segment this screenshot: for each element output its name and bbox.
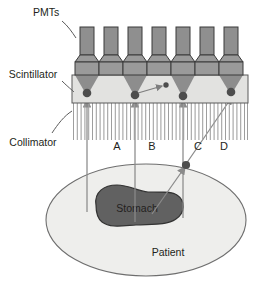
interaction-dot-c <box>179 92 188 101</box>
pmt-4 <box>147 27 171 75</box>
pmt-taper <box>123 55 147 62</box>
pmt-base <box>75 62 99 75</box>
pmt-7 <box>219 27 243 75</box>
ray-label-d: D <box>220 140 228 152</box>
interaction-dot-a <box>83 89 92 98</box>
interaction-dot-d <box>227 88 236 97</box>
collimator-label: Collimator <box>9 136 57 148</box>
pmt-base <box>219 62 243 75</box>
pmt-base <box>99 62 123 75</box>
scintillator-label: Scintillator <box>9 68 58 80</box>
pmts-label: PMTs <box>33 6 59 18</box>
pmts-leader-line <box>62 21 76 38</box>
gamma-camera-diagram: Stomach Patient <box>0 0 272 282</box>
patient-label: Patient <box>152 246 185 258</box>
scatter-point-dot <box>182 161 190 169</box>
pmt-tube <box>152 27 166 55</box>
interaction-dot-secondary <box>163 82 168 87</box>
figure-canvas: Stomach Patient <box>0 0 272 282</box>
pmt-taper <box>195 55 219 62</box>
pmt-tube <box>104 27 118 55</box>
pmt-6 <box>195 27 219 75</box>
pmt-tube <box>176 27 190 55</box>
stomach-label: Stomach <box>116 202 158 214</box>
pmt-base <box>171 62 195 75</box>
scintillator-group <box>72 75 248 103</box>
pmt-2 <box>99 27 123 75</box>
pmt-array <box>75 27 243 75</box>
pmt-taper <box>75 55 99 62</box>
pmt-tube <box>128 27 142 55</box>
pmt-5 <box>171 27 195 75</box>
pmt-tube <box>224 27 238 55</box>
pmt-3 <box>123 27 147 75</box>
pmt-taper <box>99 55 123 62</box>
pmt-base <box>195 62 219 75</box>
pmt-base <box>123 62 147 75</box>
ray-label-b: B <box>148 140 155 152</box>
pmt-1 <box>75 27 99 75</box>
pmt-base <box>147 62 171 75</box>
ray-label-a: A <box>113 140 121 152</box>
pmt-taper <box>219 55 243 62</box>
collimator-leader-line <box>52 111 72 133</box>
ray-label-c: C <box>194 140 202 152</box>
patient-group: Stomach Patient <box>46 164 246 276</box>
collimator-group <box>74 103 248 140</box>
pmt-tube <box>80 27 94 55</box>
pmt-tube <box>200 27 214 55</box>
pmt-taper <box>171 55 195 62</box>
pmt-taper <box>147 55 171 62</box>
interaction-dot-b <box>131 91 140 100</box>
collimator-septa <box>74 103 248 140</box>
